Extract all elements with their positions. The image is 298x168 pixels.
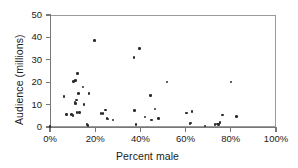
y-tick-mark [46,59,50,60]
data-point [217,123,220,126]
data-point [49,125,52,128]
x-axis-label: Percent male [116,150,179,162]
plot-area [50,15,276,127]
data-point [76,72,79,75]
x-tick-mark [95,128,96,132]
x-axis-line [49,127,277,128]
x-tick-mark [185,128,186,132]
data-point [74,79,77,82]
data-point [150,119,153,122]
y-tick-mark [46,104,50,105]
x-tick-label: 0% [30,133,70,144]
data-point [219,121,222,124]
data-point [74,102,77,105]
y-tick-mark [46,14,50,15]
data-point [83,103,86,106]
data-point [78,111,81,114]
y-tick-label: 50 [20,9,42,20]
data-point [133,109,136,112]
data-point [149,94,152,97]
data-point [77,92,80,95]
x-tick-label: 20% [75,133,115,144]
data-point [93,39,96,42]
y-tick-mark [46,37,50,38]
data-point [221,114,224,117]
data-point [87,124,90,127]
x-tick-label: 40% [120,133,160,144]
x-tick-label: 80% [211,133,251,144]
x-tick-mark [140,128,141,132]
y-tick-mark [46,82,50,83]
x-tick-mark [275,128,276,132]
data-point [72,114,75,117]
data-point [235,115,238,118]
y-axis-line [50,14,51,128]
x-tick-mark [49,128,50,132]
y-axis-label: Audience (millions) [13,34,25,125]
data-point [135,123,138,126]
x-tick-label: 60% [166,133,206,144]
x-tick-mark [230,128,231,132]
x-tick-label: 100% [256,133,296,144]
data-point [65,113,68,116]
scatter-plot-figure: 01020304050 0%20%40%60%80%100% Audience … [0,0,298,168]
data-point [157,117,160,120]
data-point [138,47,141,50]
